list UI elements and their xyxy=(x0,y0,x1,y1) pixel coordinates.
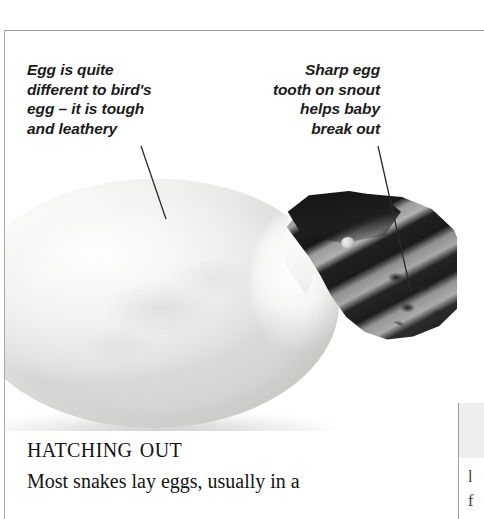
baby-snake-head xyxy=(283,191,457,341)
side-column-text-fragment-2: f xyxy=(468,492,484,510)
article-heading: Hatching out xyxy=(27,432,447,464)
article-body-text: Most snakes lay eggs, usually in a xyxy=(27,469,447,494)
side-column-text-fragment-1: l xyxy=(468,468,484,486)
side-column-rule xyxy=(458,403,459,519)
annotation-egg-tooth: Sharp egg tooth on snout helps baby brea… xyxy=(228,60,380,138)
page-canvas: Egg is quite different to bird's egg – i… xyxy=(0,0,484,519)
annotation-egg-texture: Egg is quite different to bird's egg – i… xyxy=(27,60,187,138)
side-column-panel xyxy=(459,403,484,458)
article-block: Hatching out Most snakes lay eggs, usual… xyxy=(27,432,447,494)
